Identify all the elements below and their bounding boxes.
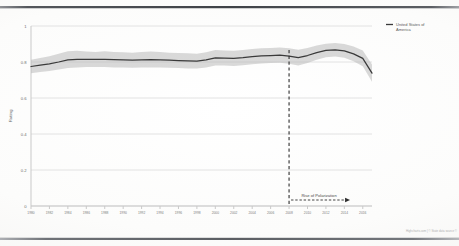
- y-tick-label: 0.2: [21, 168, 27, 173]
- legend-label-line2: America: [396, 27, 411, 32]
- y-tick-label: 1: [24, 24, 27, 29]
- chart-container: 00.20.40.60.81 1980198219841986198819901…: [0, 10, 459, 236]
- x-tick-label: 2004: [249, 211, 257, 215]
- annotation-group: Rise of Polarization: [289, 50, 350, 206]
- x-tick-label: 2006: [267, 211, 275, 215]
- x-tick-label: 1998: [193, 211, 201, 215]
- x-tick-label: 2000: [212, 211, 220, 215]
- polarization-arrowhead-icon: [345, 198, 350, 202]
- line-chart: 00.20.40.60.81 1980198219841986198819901…: [0, 10, 459, 236]
- x-tick-label: 1990: [119, 211, 127, 215]
- y-tick-label: 0: [24, 204, 27, 209]
- chart-credit[interactable]: Highcharts.com | © State data source ©: [406, 229, 458, 233]
- legend[interactable]: United States of America: [386, 22, 425, 32]
- x-tick-label: 1984: [64, 211, 72, 215]
- y-axis-title: Rating: [8, 109, 13, 122]
- x-tick-label: 1986: [83, 211, 91, 215]
- x-tick-label: 2014: [341, 211, 349, 215]
- polarization-annotation-label: Rise of Polarization: [301, 193, 337, 198]
- x-tick-label: 2002: [230, 211, 238, 215]
- x-axis: 1980198219841986198819901992199419961998…: [27, 206, 372, 215]
- y-axis: 00.20.40.60.81: [21, 24, 31, 209]
- x-tick-label: 1980: [27, 211, 35, 215]
- x-tick-label: 2016: [359, 211, 367, 215]
- x-tick-label: 1994: [156, 211, 164, 215]
- x-tick-label: 1996: [175, 211, 183, 215]
- x-tick-label: 1982: [46, 211, 54, 215]
- x-tick-label: 1992: [138, 211, 146, 215]
- x-tick-label: 2012: [322, 211, 330, 215]
- x-tick-label: 1988: [101, 211, 109, 215]
- x-tick-label: 2010: [304, 211, 312, 215]
- y-tick-label: 0.8: [21, 60, 27, 65]
- x-tick-label: 2008: [285, 211, 293, 215]
- y-tick-label: 0.4: [21, 132, 27, 137]
- y-tick-label: 0.6: [21, 96, 27, 101]
